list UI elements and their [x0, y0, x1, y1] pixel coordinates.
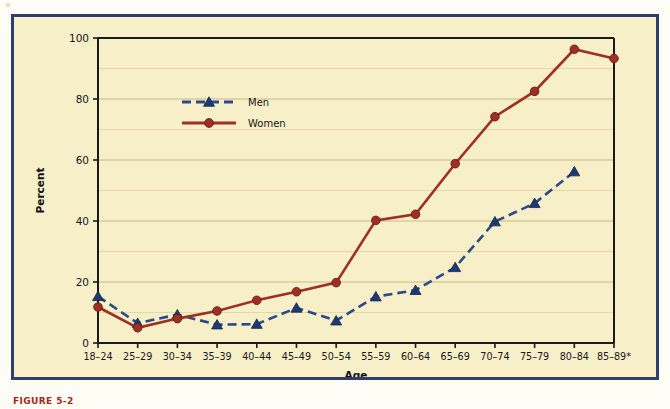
legend-marker-women	[205, 119, 214, 128]
marker-women	[133, 323, 142, 332]
figure-frame: 020406080100 18–2425–2930–3435–3940–4445…	[11, 14, 659, 380]
y-tick-label: 100	[69, 32, 89, 44]
legend-label: Women	[248, 118, 286, 129]
marker-men	[93, 291, 104, 300]
x-tick-label: 55–59	[361, 351, 390, 362]
marker-women	[411, 210, 420, 219]
x-tick-label: 25–29	[123, 351, 152, 362]
marker-women	[491, 112, 500, 121]
x-tick-labels: 18–2425–2930–3435–3940–4445–4950–5455–59…	[83, 351, 631, 362]
legend-label: Men	[248, 97, 269, 108]
x-tick-label: 50–54	[322, 351, 351, 362]
marker-men	[370, 291, 381, 300]
line-chart: 020406080100 18–2425–2930–3435–3940–4445…	[14, 17, 656, 377]
image-speck	[6, 3, 10, 7]
marker-women	[213, 307, 222, 316]
y-tick-label: 80	[76, 93, 89, 105]
y-tick-label: 20	[76, 276, 89, 288]
marker-men	[291, 303, 302, 312]
x-tick-label: 65–69	[441, 351, 470, 362]
x-tick-label: 70–74	[480, 351, 509, 362]
marker-women	[570, 45, 579, 54]
y-tick-label: 0	[82, 337, 89, 349]
marker-women	[173, 314, 182, 323]
marker-women	[530, 87, 539, 96]
marker-women	[252, 296, 261, 305]
x-tick-label: 80–84	[560, 351, 589, 362]
chart-legend: MenWomen	[182, 97, 286, 129]
major-gridlines	[98, 38, 614, 282]
minor-gridlines	[98, 69, 614, 313]
marker-men	[569, 166, 580, 175]
y-tick-labels: 020406080100	[69, 32, 89, 349]
x-tick-label: 85–89*	[597, 351, 631, 362]
data-series	[93, 45, 619, 332]
marker-men	[450, 262, 461, 271]
y-axis-title: Percent	[34, 168, 46, 214]
series-line-men	[98, 172, 574, 325]
x-tick-label: 45–49	[282, 351, 311, 362]
marker-women	[332, 278, 341, 287]
x-tick-label: 60–64	[401, 351, 430, 362]
x-tick-label: 35–39	[202, 351, 231, 362]
x-axis-title: Age	[345, 369, 368, 377]
x-tick-label: 30–34	[163, 351, 192, 362]
marker-women	[372, 216, 381, 225]
x-tick-label: 40–44	[242, 351, 271, 362]
figure-caption-text: FIGURE 5-2	[13, 396, 313, 408]
y-tick-label: 60	[76, 154, 89, 166]
marker-women	[292, 287, 301, 296]
y-tick-label: 40	[76, 215, 89, 227]
chart-plot-area: 020406080100 18–2425–2930–3435–3940–4445…	[14, 17, 656, 377]
marker-women	[610, 54, 619, 63]
x-tick-label: 18–24	[83, 351, 112, 362]
marker-women	[451, 159, 460, 168]
figure-caption: FIGURE 5-2	[13, 396, 313, 409]
x-tick-label: 75–79	[520, 351, 549, 362]
marker-women	[94, 303, 103, 312]
